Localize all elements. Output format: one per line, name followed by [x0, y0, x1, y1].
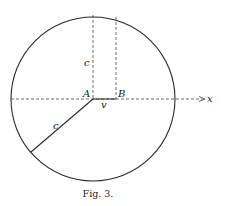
label-point-b: B: [117, 88, 125, 99]
label-axis-x: x: [207, 93, 213, 104]
label-slanted-c: c: [53, 120, 59, 131]
label-vertical-c: c: [84, 57, 90, 68]
slanted-radius: [31, 99, 93, 152]
label-point-a: A: [82, 88, 90, 99]
figure-caption: Fig. 3.: [83, 188, 114, 199]
diagram-figure: c A B v c x Fig. 3.: [0, 0, 227, 206]
label-segment-v: v: [101, 99, 107, 110]
